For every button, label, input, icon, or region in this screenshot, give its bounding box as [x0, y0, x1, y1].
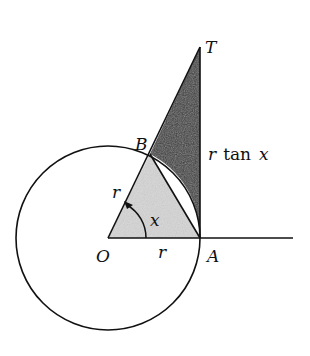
label-radius-OB: r — [112, 182, 121, 202]
label-radius-OA: r — [158, 242, 167, 262]
label-A: A — [205, 246, 219, 266]
label-r-tan-x: r tan x — [208, 144, 269, 164]
label-angle-x: x — [150, 210, 160, 230]
label-T: T — [205, 37, 218, 57]
label-B: B — [134, 134, 148, 154]
geometry-diagram: T B O A r r x r tan x — [0, 0, 310, 356]
label-O: O — [96, 246, 110, 266]
